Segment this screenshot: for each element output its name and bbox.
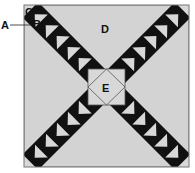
quilt-block-diagram: A B C D E bbox=[0, 0, 195, 173]
label-b: B bbox=[33, 18, 41, 30]
label-d: D bbox=[101, 23, 109, 35]
label-c: C bbox=[25, 6, 33, 18]
label-a: A bbox=[1, 19, 9, 31]
label-e: E bbox=[102, 82, 109, 94]
